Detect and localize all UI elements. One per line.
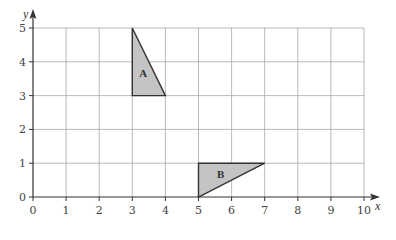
x-tick-label: 10 bbox=[357, 204, 371, 217]
x-tick-label: 2 bbox=[96, 204, 103, 217]
x-tick-label: 8 bbox=[294, 204, 301, 217]
y-tick-label: 4 bbox=[19, 56, 26, 69]
shape-label-a: A bbox=[139, 67, 147, 79]
x-tick-label: 5 bbox=[195, 204, 202, 217]
y-tick-label: 2 bbox=[19, 123, 26, 136]
x-tick-label: 0 bbox=[30, 204, 37, 217]
x-tick-label: 9 bbox=[327, 204, 334, 217]
coordinate-grid: x y 012345678910012345 AB bbox=[0, 0, 396, 240]
x-tick-label: 6 bbox=[228, 204, 235, 217]
x-tick-label: 3 bbox=[129, 204, 136, 217]
y-tick-label: 0 bbox=[19, 191, 26, 204]
y-tick-label: 3 bbox=[19, 90, 26, 103]
y-axis-label: y bbox=[22, 7, 29, 21]
tick-labels: 012345678910012345 bbox=[19, 22, 371, 217]
y-tick-label: 1 bbox=[19, 157, 26, 170]
x-tick-label: 4 bbox=[162, 204, 169, 217]
shape-label-b: B bbox=[217, 168, 225, 180]
x-tick-label: 7 bbox=[261, 204, 268, 217]
x-axis-label: x bbox=[374, 199, 381, 213]
x-tick-label: 1 bbox=[63, 204, 70, 217]
y-tick-label: 5 bbox=[19, 22, 26, 35]
